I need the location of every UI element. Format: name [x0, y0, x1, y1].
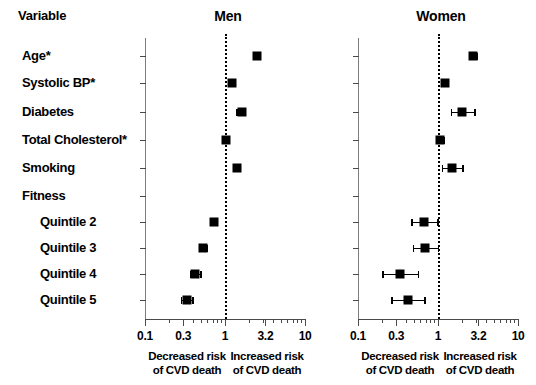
x-axis-minor-tick-8 [217, 320, 218, 323]
x-axis-major-tick-2 [183, 320, 184, 326]
x-axis-minor-tick-2 [382, 320, 383, 323]
x-axis-major-tick-1 [358, 320, 359, 326]
point-marker-1 [252, 52, 261, 61]
x-axis-minor-tick-6 [207, 320, 208, 323]
variable-label-10: Quintile 5 [40, 292, 96, 307]
y-axis-tick-9 [353, 274, 359, 275]
x-axis-minor-tick-16 [293, 320, 294, 323]
footnote-decreased-risk: Decreased riskof CVD death [148, 350, 226, 377]
y-axis-spine [145, 38, 146, 319]
reference-line [438, 34, 440, 319]
ci-cap-high-3 [474, 109, 476, 116]
x-axis-minor-tick-17 [297, 320, 298, 323]
footnote-increased-line2: of CVD death [443, 364, 516, 378]
x-axis-minor-tick-7 [213, 320, 214, 323]
footnote-decreased-line2: of CVD death [148, 364, 226, 378]
y-axis-tick-7 [353, 222, 359, 223]
point-marker-10 [403, 296, 412, 305]
x-axis-minor-tick-16 [506, 320, 507, 323]
point-marker-7 [420, 218, 429, 227]
footnote-decreased-line2: of CVD death [361, 364, 439, 378]
x-axis-minor-tick-18 [514, 320, 515, 323]
ci-cap-low-9 [382, 271, 384, 278]
variable-label-9: Quintile 4 [40, 266, 96, 281]
x-axis-minor-tick-4 [406, 320, 407, 323]
x-axis-minor-tick-14 [281, 320, 282, 323]
ci-cap-high-10 [424, 297, 426, 304]
point-marker-3 [458, 108, 467, 117]
x-axis-minor-tick-8 [430, 320, 431, 323]
x-axis-major-tick-3 [438, 320, 439, 326]
x-axis-major-tick-2 [396, 320, 397, 326]
x-axis-minor-tick-14 [494, 320, 495, 323]
point-marker-8 [198, 244, 207, 253]
footnote-decreased-line1: Decreased risk [361, 350, 439, 364]
x-axis-tick-label-2: 0.3 [175, 329, 191, 343]
x-axis-minor-tick-9 [221, 320, 222, 323]
x-axis-tick-label-1: 0.1 [350, 329, 366, 343]
point-marker-9 [190, 270, 199, 279]
x-axis-minor-tick-9 [434, 320, 435, 323]
x-axis-minor-tick-13 [273, 320, 274, 323]
ci-cap-high-8 [438, 245, 440, 252]
ci-cap-low-5 [442, 165, 444, 172]
x-axis-minor-tick-11 [462, 320, 463, 323]
footnote-increased-risk: Increased riskof CVD death [230, 350, 303, 377]
y-axis-tick-5 [353, 168, 359, 169]
variable-label-3: Diabetes [22, 104, 74, 119]
x-axis-major-tick-1 [145, 320, 146, 326]
footnote-increased-risk: Increased riskof CVD death [443, 350, 516, 377]
x-axis-major-tick-4 [478, 320, 479, 326]
x-axis-tick-label-1: 0.1 [137, 329, 153, 343]
y-axis-tick-4 [140, 140, 146, 141]
y-axis-tick-10 [140, 300, 146, 301]
x-axis-minor-tick-15 [500, 320, 501, 323]
variable-label-7: Quintile 2 [40, 214, 96, 229]
x-axis-tick-label-4: 3.2 [470, 329, 486, 343]
x-axis-major-tick-3 [225, 320, 226, 326]
x-axis-major-tick-5 [305, 320, 306, 326]
ci-cap-high-9 [418, 271, 420, 278]
variable-label-5: Smoking [22, 160, 75, 175]
footnote-increased-line2: of CVD death [230, 364, 303, 378]
x-axis-major-tick-4 [265, 320, 266, 326]
footnote-increased-line1: Increased risk [443, 350, 516, 364]
y-axis-tick-2 [353, 83, 359, 84]
ci-cap-high-5 [462, 165, 464, 172]
y-axis-tick-10 [353, 300, 359, 301]
y-axis-tick-1 [353, 56, 359, 57]
x-axis-minor-tick-5 [414, 320, 415, 323]
x-axis-major-tick-5 [518, 320, 519, 326]
x-axis-minor-tick-17 [510, 320, 511, 323]
forest-plot-figure: Variable Age*Systolic BP*DiabetesTotal C… [0, 0, 536, 385]
ci-cap-low-10 [391, 297, 393, 304]
point-marker-10 [182, 296, 191, 305]
point-marker-7 [209, 218, 218, 227]
point-marker-5 [448, 164, 457, 173]
x-axis-minor-tick-5 [201, 320, 202, 323]
ci-cap-low-7 [411, 219, 413, 226]
point-marker-3 [237, 108, 246, 117]
x-axis-minor-tick-13 [486, 320, 487, 323]
point-marker-2 [227, 79, 236, 88]
x-axis-minor-tick-2 [169, 320, 170, 323]
y-axis-tick-4 [353, 140, 359, 141]
reference-line [225, 34, 227, 319]
panel-title-men: Men [214, 8, 241, 24]
ci-cap-high-10 [192, 297, 194, 304]
x-axis-tick-label-4: 3.2 [257, 329, 273, 343]
point-marker-4 [222, 136, 231, 145]
ci-cap-low-3 [451, 109, 453, 116]
variable-label-6: Fitness [22, 188, 65, 203]
footnote-decreased-risk: Decreased riskof CVD death [361, 350, 439, 377]
variable-label-8: Quintile 3 [40, 240, 96, 255]
point-marker-2 [440, 79, 449, 88]
y-axis-tick-8 [140, 248, 146, 249]
y-axis-tick-5 [140, 168, 146, 169]
y-axis-tick-8 [353, 248, 359, 249]
point-marker-9 [395, 270, 404, 279]
y-axis-tick-6 [140, 196, 146, 197]
variable-label-4: Total Cholesterol* [22, 132, 127, 147]
y-axis-tick-7 [140, 222, 146, 223]
x-axis-tick-label-3: 1 [222, 329, 228, 343]
